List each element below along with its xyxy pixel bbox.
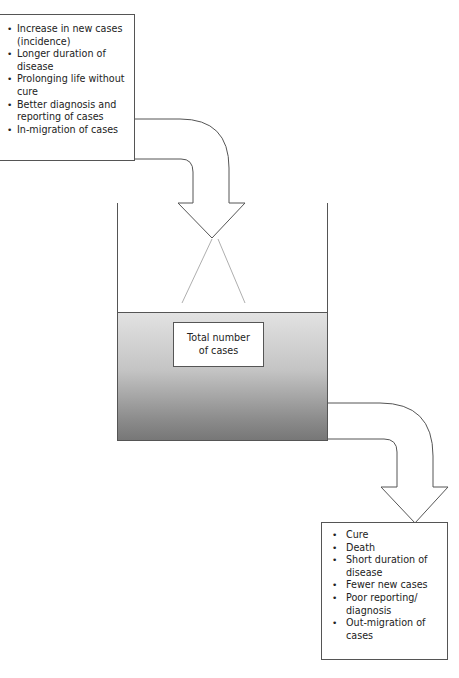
inflow-factors-box: Increase in new cases (incidence) Longer… [0, 14, 135, 161]
outflow-factors-list: Cure Death Short duration of disease Few… [322, 529, 447, 642]
outflow-factor: Out-migration of cases [322, 617, 447, 642]
outflow-factor: Fewer new cases [322, 579, 447, 592]
outflow-factor: Cure [322, 529, 447, 542]
total-cases-label-box: Total number of cases [173, 322, 264, 367]
outflow-factors-box: Cure Death Short duration of disease Few… [321, 522, 448, 660]
outflow-factor: Short duration of disease [322, 554, 447, 579]
inflow-factor: In-migration of cases [0, 124, 134, 137]
inflow-factor: Increase in new cases (incidence) [0, 23, 134, 48]
outflow-factor: Death [322, 542, 447, 555]
outflow-arrow [328, 403, 448, 523]
inflow-factors-list: Increase in new cases (incidence) Longer… [0, 23, 134, 136]
outflow-factor: Poor reporting/ diagnosis [322, 592, 447, 617]
inflow-factor: Prolonging life without cure [0, 73, 134, 98]
total-cases-label-line2: of cases [174, 344, 263, 357]
total-cases-label-line1: Total number [174, 331, 263, 344]
inflow-factor: Better diagnosis and reporting of cases [0, 99, 134, 124]
inflow-factor: Longer duration of disease [0, 48, 134, 73]
